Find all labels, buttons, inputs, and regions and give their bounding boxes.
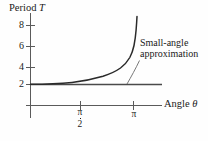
y-tick-label-8: 8 <box>12 20 24 31</box>
y-tick-label-6: 6 <box>12 41 24 52</box>
pendulum-period-figure: Period T Angle θ 8 6 4 2 π 2 π Small-ang… <box>0 0 208 141</box>
x-tick-label-pi: π <box>126 110 142 120</box>
y-axis-title: Period T <box>9 2 45 13</box>
fraction-denominator: 2 <box>78 120 83 130</box>
exact-period-curve <box>31 17 138 85</box>
small-angle-approximation-annotation: Small-angleapproximation <box>140 38 198 59</box>
fraction-numerator: π <box>78 108 83 118</box>
plot-canvas <box>0 0 208 141</box>
fraction-pi-over-2: π 2 <box>78 108 83 129</box>
annotation-line-2: approximation <box>140 49 198 60</box>
x-tick-label-pi-over-2: π 2 <box>72 108 88 129</box>
x-axis-title: Angle θ <box>164 98 197 109</box>
annotation-leader-line <box>127 61 140 85</box>
x-axis-symbol: θ <box>192 98 197 109</box>
y-axis-symbol: T <box>39 2 45 13</box>
y-tick-label-4: 4 <box>12 62 24 73</box>
y-axis-title-text: Period <box>9 2 39 13</box>
y-tick-label-2: 2 <box>12 79 24 90</box>
x-axis-title-text: Angle <box>164 98 192 109</box>
annotation-line-1: Small-angle <box>140 37 188 48</box>
